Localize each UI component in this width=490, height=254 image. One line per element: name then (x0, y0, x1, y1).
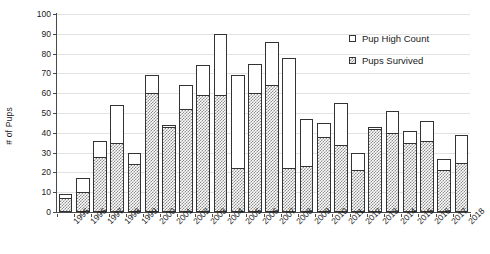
y-axis-tick-label: 60 (21, 88, 51, 98)
x-axis-tickmark (367, 214, 368, 217)
x-axis-tick-label: 1995 (71, 219, 78, 226)
x-axis-tickmark (384, 214, 385, 217)
x-axis-tickmark (91, 214, 92, 217)
y-axis-title-text: # of Pups (4, 107, 14, 145)
bar-group (59, 14, 73, 212)
bar-group (110, 14, 124, 212)
x-axis-tickmark (109, 214, 110, 217)
x-axis-tickmark (246, 214, 247, 217)
bar-segment-pups-survived (420, 141, 434, 212)
x-axis-tick-label: 2008 (294, 219, 301, 226)
x-axis-tickmark (195, 214, 196, 217)
bar-segment-pups-survived (214, 95, 228, 212)
bar-group (282, 14, 296, 212)
bar-segment-pups-survived (368, 129, 382, 212)
x-axis-tick-label: 2015 (415, 219, 422, 226)
bar-chart: # of Pups 0102030405060708090100 1995199… (0, 0, 490, 254)
y-axis-tick-label: 70 (21, 68, 51, 78)
x-axis-tickmark (350, 214, 351, 217)
bar-group (93, 14, 107, 212)
bar-segment-pups-survived (110, 143, 124, 212)
x-axis-tickmark (281, 214, 282, 217)
legend-item-pups-survived: Pups Survived (349, 55, 429, 66)
x-axis-tickmark (229, 214, 230, 217)
x-axis-tick-label: 2000 (157, 219, 164, 226)
y-axis-tick-label: 90 (21, 29, 51, 39)
bar-segment-pups-survived (162, 127, 176, 212)
legend-item-pup-high-count: Pup High Count (349, 33, 429, 44)
x-axis-tick-label: 2001 (174, 219, 181, 226)
bar-group (214, 14, 228, 212)
x-axis-tickmark (212, 214, 213, 217)
x-axis-tick-label: 2014 (398, 219, 405, 226)
bar-segment-pups-survived (455, 163, 469, 213)
x-axis-tickmark (436, 214, 437, 217)
bar-group (334, 14, 348, 212)
x-axis-tickmark (298, 214, 299, 217)
x-axis-tickmark (470, 214, 471, 217)
x-axis-tick-label: 1997 (105, 219, 112, 226)
x-axis-tick-label: 2016 (432, 219, 439, 226)
chart-legend: Pup High Count Pups Survived (349, 33, 429, 66)
bar-group (437, 14, 451, 212)
bar-segment-pups-survived (265, 85, 279, 212)
x-axis-tickmark (74, 214, 75, 217)
y-axis-tick-label: 0 (21, 207, 51, 217)
bar-group (145, 14, 159, 212)
y-axis-tick-label: 40 (21, 128, 51, 138)
x-axis-tick-label: 2012 (363, 219, 370, 226)
bar-segment-pups-survived (59, 198, 73, 212)
legend-swatch-hatched-square-icon (349, 57, 356, 64)
bar-group (248, 14, 262, 212)
x-axis-tick-label: 1998 (122, 219, 129, 226)
bar-group (128, 14, 142, 212)
bar-group (455, 14, 469, 212)
x-axis-tickmark (126, 214, 127, 217)
x-axis-tick-label: 2003 (208, 219, 215, 226)
y-axis-tickmark (53, 212, 57, 213)
x-axis-tickmark (57, 214, 58, 217)
bar-segment-pups-survived (386, 133, 400, 212)
x-axis-tickmark (315, 214, 316, 217)
x-axis-tick-label: 2017 (449, 219, 456, 226)
bar-group (76, 14, 90, 212)
y-axis-tick-label: 20 (21, 167, 51, 177)
legend-label: Pups Survived (362, 55, 423, 66)
bar-segment-pups-survived (334, 145, 348, 212)
x-axis-tick-label: 2006 (260, 219, 267, 226)
x-axis-tick-label: 2007 (277, 219, 284, 226)
x-axis-tickmark (332, 214, 333, 217)
y-axis-tick-label: 80 (21, 49, 51, 59)
y-axis-tick-label: 10 (21, 187, 51, 197)
legend-swatch-open-square-icon (349, 35, 356, 42)
bar-segment-pups-survived (248, 93, 262, 212)
bar-group (196, 14, 210, 212)
x-axis-tick-label: 2002 (191, 219, 198, 226)
x-axis-tick-label: 1999 (139, 219, 146, 226)
x-axis-tickmark (418, 214, 419, 217)
bar-group (265, 14, 279, 212)
bar-group (317, 14, 331, 212)
y-axis-tick-label: 50 (21, 108, 51, 118)
x-axis-tickmark (453, 214, 454, 217)
x-axis-tick-label: 2013 (380, 219, 387, 226)
bar-group (162, 14, 176, 212)
x-axis-tick-label: 2018 (466, 219, 473, 226)
x-axis-tickmark (160, 214, 161, 217)
x-axis-tickmark (401, 214, 402, 217)
bar-segment-pups-survived (145, 93, 159, 212)
x-axis-tick-label: 1996 (88, 219, 95, 226)
bar-group (231, 14, 245, 212)
bar-segment-pups-survived (403, 143, 417, 212)
bar-segment-pups-survived (93, 157, 107, 212)
legend-label: Pup High Count (362, 33, 429, 44)
x-axis-tick-label: 2004 (225, 219, 232, 226)
y-axis-tick-label: 30 (21, 148, 51, 158)
x-axis-tickmark (143, 214, 144, 217)
x-axis-tickmark (264, 214, 265, 217)
x-axis-tick-label: 2010 (329, 219, 336, 226)
y-axis-title: # of Pups (2, 78, 16, 174)
bar-group (300, 14, 314, 212)
bar-segment-pups-survived (196, 95, 210, 212)
x-axis-tickmark (177, 214, 178, 217)
